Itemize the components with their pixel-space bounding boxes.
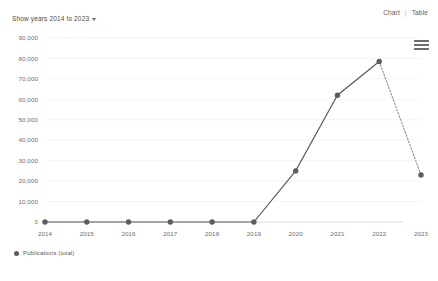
show-years-dropdown[interactable]: Show years 2014 to 2023▾ bbox=[12, 15, 95, 22]
x-axis-tick-label: 2016 bbox=[121, 230, 136, 237]
data-point[interactable] bbox=[126, 219, 131, 224]
data-point[interactable] bbox=[418, 172, 423, 177]
x-axis-tick-label: 2015 bbox=[80, 230, 95, 237]
data-point[interactable] bbox=[209, 219, 214, 224]
data-point[interactable] bbox=[42, 219, 47, 224]
data-point[interactable] bbox=[168, 219, 173, 224]
tab-table[interactable]: Table bbox=[412, 9, 428, 16]
x-axis-tick-label: 2018 bbox=[205, 230, 220, 237]
x-axis-tick-label: 2019 bbox=[247, 230, 262, 237]
data-point[interactable] bbox=[377, 59, 382, 64]
tab-chart[interactable]: Chart bbox=[383, 9, 400, 16]
y-axis-tick-label: 10,000 bbox=[18, 198, 38, 205]
x-axis-tick-label: 2021 bbox=[330, 230, 345, 237]
chart-canvas: 010,00020,00030,00040,00050,00060,00070,… bbox=[0, 26, 438, 248]
y-axis-tick-label: 90,000 bbox=[18, 34, 38, 41]
chevron-down-icon: ▾ bbox=[92, 15, 96, 22]
show-years-label: Show years 2014 to 2023 bbox=[12, 15, 89, 22]
y-axis-tick-label: 30,000 bbox=[18, 157, 38, 164]
view-mode-toggle: Chart|Table bbox=[383, 9, 428, 16]
chart-x-axis-labels: 2014201520162017201820192020202120222023 bbox=[38, 230, 429, 237]
y-axis-tick-label: 0 bbox=[34, 218, 38, 225]
y-axis-tick-label: 50,000 bbox=[18, 116, 38, 123]
y-axis-tick-label: 70,000 bbox=[18, 75, 38, 82]
y-axis-tick-label: 80,000 bbox=[18, 55, 38, 62]
legend-marker-icon bbox=[14, 251, 19, 256]
chart-legend[interactable]: Publications (total) bbox=[14, 250, 74, 256]
series-line-solid bbox=[45, 62, 379, 222]
x-axis-tick-label: 2022 bbox=[372, 230, 387, 237]
x-axis-tick-label: 2017 bbox=[163, 230, 178, 237]
data-point[interactable] bbox=[293, 168, 298, 173]
chart-y-axis-labels: 010,00020,00030,00040,00050,00060,00070,… bbox=[18, 34, 38, 225]
data-point[interactable] bbox=[335, 93, 340, 98]
chart-gridlines bbox=[45, 38, 421, 202]
data-point[interactable] bbox=[251, 219, 256, 224]
chart-series-lines bbox=[45, 62, 421, 222]
y-axis-tick-label: 60,000 bbox=[18, 96, 38, 103]
legend-label: Publications (total) bbox=[23, 250, 74, 256]
data-point[interactable] bbox=[84, 219, 89, 224]
line-chart: 010,00020,00030,00040,00050,00060,00070,… bbox=[0, 26, 438, 248]
y-axis-tick-label: 40,000 bbox=[18, 136, 38, 143]
chart-data-points bbox=[42, 59, 423, 225]
toggle-separator: | bbox=[405, 9, 407, 16]
y-axis-tick-label: 20,000 bbox=[18, 177, 38, 184]
x-axis-tick-label: 2023 bbox=[414, 230, 429, 237]
x-axis-tick-label: 2020 bbox=[289, 230, 304, 237]
x-axis-tick-label: 2014 bbox=[38, 230, 53, 237]
